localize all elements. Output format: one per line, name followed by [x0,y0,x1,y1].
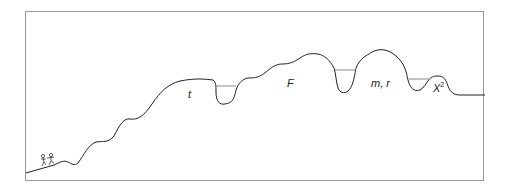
terrain-line [26,50,485,173]
label-t: t [188,89,191,100]
hikers-icon [41,153,54,166]
landscape-diagram [0,0,508,192]
label-chi-squared: X2 [433,83,444,94]
label-F: F [287,78,294,89]
label-chi-sup: 2 [440,81,444,88]
label-m-r: m, r [371,78,390,89]
